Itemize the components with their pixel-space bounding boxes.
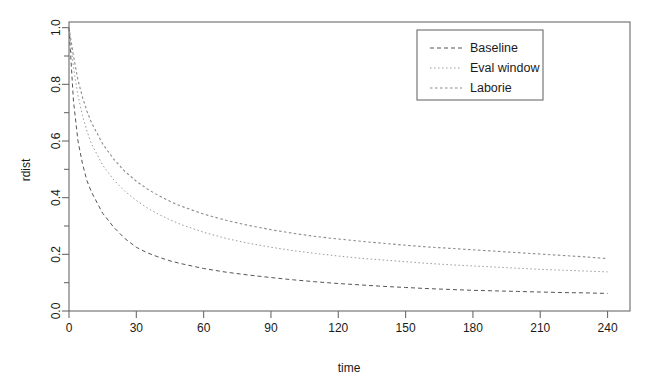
y-axis-label: rdist — [19, 158, 33, 181]
chart-legend: BaselineEval windowLaborie — [417, 30, 543, 100]
x-tick-label: 60 — [197, 321, 211, 335]
plot-canvas: 0.00.20.40.60.81.0 030609012015018021024… — [0, 0, 666, 389]
y-tick-label: 0.8 — [49, 76, 63, 93]
x-tick-label: 0 — [66, 321, 73, 335]
y-tick-label: 1.0 — [49, 19, 63, 36]
y-tick-label: 0.2 — [49, 246, 63, 263]
y-tick-label: 0.0 — [49, 302, 63, 319]
x-tick-label: 150 — [396, 321, 416, 335]
x-tick-label: 90 — [264, 321, 278, 335]
x-tick-label: 240 — [598, 321, 618, 335]
y-tick-label: 0.6 — [49, 132, 63, 149]
x-axis-label: time — [338, 361, 361, 375]
chart-figure: 0.00.20.40.60.81.0 030609012015018021024… — [0, 0, 666, 389]
x-tick-label: 210 — [530, 321, 550, 335]
legend-label-baseline: Baseline — [470, 41, 518, 55]
legend-label-eval-window: Eval window — [470, 61, 540, 75]
x-tick-label: 120 — [328, 321, 348, 335]
x-tick-label: 30 — [130, 321, 144, 335]
y-tick-label: 0.4 — [49, 189, 63, 206]
legend-label-laborie: Laborie — [470, 81, 512, 95]
x-tick-label: 180 — [463, 321, 483, 335]
